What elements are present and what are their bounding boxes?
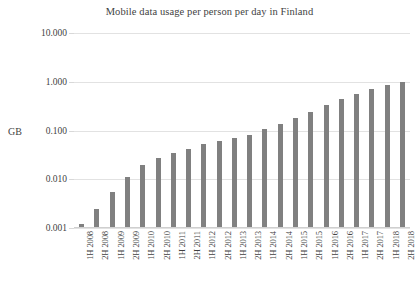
- x-tick-label: 2H 2016: [345, 231, 355, 260]
- bar: [385, 85, 390, 228]
- x-tick-label: 1H 2013: [238, 231, 248, 260]
- x-tick-label: 2H 2010: [162, 231, 172, 260]
- bar: [308, 112, 313, 228]
- y-tick-label: 10.000: [41, 28, 67, 38]
- x-tick-label: 1H 2008: [85, 231, 95, 260]
- x-tick-label: 1H 2014: [268, 231, 278, 260]
- y-axis: 10.0001.0000.1000.0100.001: [0, 0, 74, 286]
- bar: [400, 82, 405, 228]
- plot-area: [74, 33, 410, 228]
- x-tick-label: 2H 2014: [284, 231, 294, 260]
- bar: [171, 153, 176, 228]
- bar: [140, 165, 145, 228]
- x-tick-label: 2H 2009: [131, 231, 141, 260]
- chart-container: Mobile data usage per person per day in …: [0, 0, 419, 286]
- x-tick-label: 2H 2018: [406, 231, 416, 260]
- bar: [110, 192, 115, 228]
- bar: [94, 209, 99, 228]
- y-tick-label: 0.001: [46, 223, 67, 233]
- y-tick-label: 0.010: [46, 174, 67, 184]
- gridline: [74, 33, 410, 34]
- bar: [324, 105, 329, 228]
- bar: [232, 138, 237, 228]
- bar: [278, 124, 283, 228]
- bar: [293, 118, 298, 228]
- x-tick-label: 1H 2018: [391, 231, 401, 260]
- bar: [247, 135, 252, 228]
- x-tick-label: 2H 2013: [253, 231, 263, 260]
- x-tick-label: 2H 2017: [375, 231, 385, 260]
- x-tick-label: 1H 2009: [116, 231, 126, 260]
- bar: [354, 94, 359, 228]
- x-tick-label: 2H 2011: [192, 231, 202, 260]
- bar: [262, 129, 267, 228]
- x-tick-label: 1H 2017: [360, 231, 370, 260]
- gridline: [74, 82, 410, 83]
- bar: [339, 99, 344, 228]
- bar: [201, 144, 206, 228]
- x-tick-label: 2H 2008: [100, 231, 110, 260]
- bar: [217, 141, 222, 228]
- bar: [369, 89, 374, 228]
- x-tick-label: 1H 2012: [207, 231, 217, 260]
- gridline: [74, 228, 410, 229]
- gridline: [74, 131, 410, 132]
- y-axis-title: GB: [8, 125, 22, 136]
- bar: [156, 158, 161, 228]
- y-tick-label: 0.100: [46, 126, 67, 136]
- x-tick-label: 2H 2012: [223, 231, 233, 260]
- x-tick-label: 1H 2015: [299, 231, 309, 260]
- x-tick-label: 1H 2010: [146, 231, 156, 260]
- x-tick-label: 2H 2015: [314, 231, 324, 260]
- x-axis-line: [74, 227, 410, 228]
- bar: [125, 177, 130, 228]
- y-tick-label: 1.000: [46, 77, 67, 87]
- x-axis: 1H 20082H 20081H 20092H 20091H 20102H 20…: [74, 231, 410, 286]
- bar: [186, 149, 191, 228]
- x-tick-label: 1H 2016: [330, 231, 340, 260]
- x-tick-label: 1H 2011: [177, 231, 187, 260]
